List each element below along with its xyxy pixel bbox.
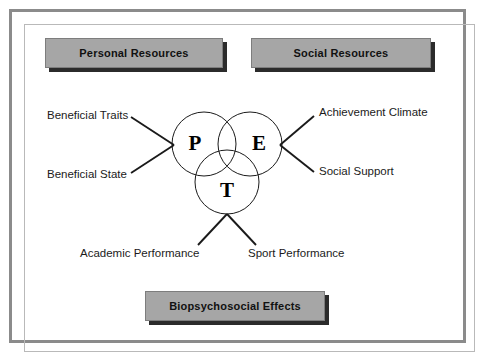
venn-circle-p [172, 112, 236, 176]
box-biopsychosocial-effects: Biopsychosocial Effects [145, 291, 325, 321]
connector-achievement-climate [280, 116, 314, 145]
label-sport-performance: Sport Performance [248, 248, 345, 260]
diagram-canvas: P E T Personal Resources Social Resource… [0, 0, 483, 361]
connector-sport-performance [227, 214, 256, 245]
venn-circle-e [218, 112, 282, 176]
box-biopsychosocial-effects-label: Biopsychosocial Effects [169, 300, 301, 312]
label-beneficial-traits: Beneficial Traits [47, 110, 128, 122]
label-beneficial-state: Beneficial State [47, 169, 127, 181]
connector-social-support [280, 145, 314, 172]
connector-beneficial-state [131, 145, 174, 173]
box-personal-resources: Personal Resources [45, 38, 223, 68]
box-personal-resources-label: Personal Resources [79, 47, 188, 59]
venn-label-t: T [220, 180, 234, 201]
connector-beneficial-traits [131, 117, 174, 145]
label-academic-performance: Academic Performance [80, 248, 200, 260]
venn-label-p: P [189, 133, 202, 154]
connector-academic-performance [198, 214, 227, 245]
label-achievement-climate: Achievement Climate [319, 107, 428, 119]
venn-label-e: E [252, 133, 266, 154]
label-social-support: Social Support [319, 166, 394, 178]
box-social-resources: Social Resources [251, 38, 431, 68]
box-social-resources-label: Social Resources [294, 47, 389, 59]
